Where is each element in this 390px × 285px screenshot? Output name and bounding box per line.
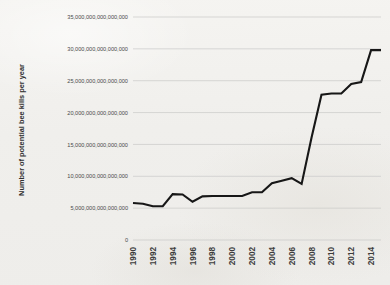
x-axis-tick-label: 2012 <box>347 247 356 266</box>
y-axis-tick-label: 30,000,000,000,000,000 <box>67 46 128 52</box>
x-axis-tick-label: 2000 <box>228 247 237 266</box>
line-chart: 05,000,000,000,000,00010,000,000,000,000… <box>0 0 390 285</box>
y-axis-tick-label: 0 <box>125 237 128 243</box>
y-axis-tick-label: 10,000,000,000,000,000 <box>67 173 128 179</box>
x-axis-tick-label: 1998 <box>208 247 217 266</box>
chart-canvas: 05,000,000,000,000,00010,000,000,000,000… <box>0 0 390 285</box>
x-axis-tick-label: 2010 <box>327 247 336 266</box>
x-axis-tick-label: 2006 <box>288 247 297 266</box>
y-axis-tick-label: 20,000,000,000,000,000 <box>67 110 128 116</box>
x-axis-tick-label: 1990 <box>129 247 138 266</box>
x-axis-tick-label: 2004 <box>268 247 277 266</box>
y-axis-tick-label: 15,000,000,000,000,000 <box>67 142 128 148</box>
x-axis-tick-label: 1992 <box>149 247 158 266</box>
y-axis-tick-label: 25,000,000,000,000,000 <box>67 78 128 84</box>
x-axis-tick-label: 1996 <box>189 247 198 266</box>
y-axis-title: Number of potential bee kills per year <box>17 64 26 196</box>
data-series-line <box>133 50 381 206</box>
x-axis-tick-label: 2002 <box>248 247 257 266</box>
x-axis-tick-labels: 1990199219941996199820002002200420062008… <box>129 247 376 266</box>
y-axis-tick-label: 5,000,000,000,000,000 <box>70 205 128 211</box>
y-axis-tick-label: 35,000,000,000,000,000 <box>67 14 128 20</box>
x-axis-tick-label: 2008 <box>308 247 317 266</box>
gridlines <box>133 17 381 240</box>
x-axis-tick-label: 2014 <box>367 247 376 266</box>
x-axis-tick-label: 1994 <box>169 247 178 266</box>
y-axis-tick-labels: 05,000,000,000,000,00010,000,000,000,000… <box>67 14 128 243</box>
